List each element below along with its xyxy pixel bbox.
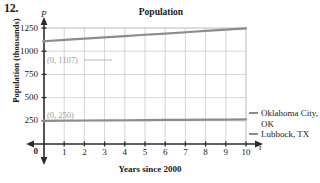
y-axis-variable-label: P <box>41 10 47 19</box>
legend-label-lubbock: Lubbock, TX <box>249 129 320 140</box>
x-axis-tick-label: 3 <box>97 148 113 157</box>
x-axis-tick-label: 4 <box>117 148 133 157</box>
x-axis-title: Years since 2000 <box>70 164 230 174</box>
legend-swatch-line-icon <box>249 133 258 135</box>
chart-title: Population <box>98 7 224 17</box>
gridlines <box>44 28 246 144</box>
x-axis-tick-label: 10 <box>238 148 254 157</box>
y-axis-tick-label: 1250 <box>4 24 38 33</box>
legend-swatch-line-icon <box>249 112 258 114</box>
y-axis-tick-label: 500 <box>4 93 38 102</box>
annotation-label-oklahoma-city: (0, 1107) <box>47 56 78 65</box>
x-axis-tick-label: 5 <box>137 148 153 157</box>
y-axis-tick-label: 250 <box>4 116 38 125</box>
chart-legend: Oklahoma City, OK Lubbock, TX <box>249 108 320 140</box>
y-axis-tick-label: 750 <box>4 70 38 79</box>
data-series-lines <box>42 28 246 122</box>
legend-item-oklahoma-city: Oklahoma City, OK <box>249 108 320 129</box>
annotation-label-lubbock: (0, 250) <box>47 111 74 120</box>
x-axis-tick-label: 2 <box>76 148 92 157</box>
population-line-chart-figure: 12. Population P t Population (thousands… <box>0 0 320 183</box>
x-axis-tick-labels: 12345678910 <box>0 148 320 160</box>
legend-label-oklahoma-city: Oklahoma City, OK <box>249 108 320 129</box>
legend-item-lubbock: Lubbock, TX <box>249 129 320 140</box>
x-axis-tick-label: 6 <box>157 148 173 157</box>
axis-tick-marks <box>42 28 247 147</box>
x-axis-tick-label: 7 <box>177 148 193 157</box>
x-axis-tick-label: 9 <box>218 148 234 157</box>
x-axis-tick-label: 8 <box>198 148 214 157</box>
y-axis-tick-label: 1000 <box>4 47 38 56</box>
x-axis-tick-label: 1 <box>56 148 72 157</box>
